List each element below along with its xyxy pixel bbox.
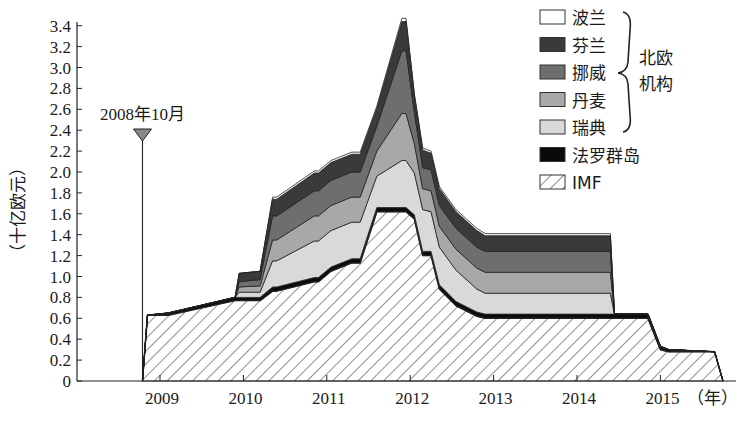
x-axis-label: （年） xyxy=(687,388,738,408)
legend-label: 挪威 xyxy=(572,63,606,83)
legend-swatch xyxy=(540,10,565,24)
y-tick-label: 1.8 xyxy=(50,184,71,203)
legend-swatch xyxy=(540,93,565,107)
y-tick-label: 2.2 xyxy=(50,142,71,161)
y-tick-label: 3.4 xyxy=(50,17,72,36)
y-axis-label: （十亿欧元） xyxy=(8,159,28,261)
x-tick-label: 2015 xyxy=(645,389,679,408)
y-tick-label: 1.0 xyxy=(50,268,71,287)
y-tick-label: 0.6 xyxy=(50,309,71,328)
y-tick-label: 3.2 xyxy=(50,38,71,57)
x-tick-label: 2009 xyxy=(145,389,179,408)
legend-group-label-line1: 北欧 xyxy=(639,48,673,68)
x-tick-label: 2010 xyxy=(228,389,262,408)
legend-swatch xyxy=(540,148,565,162)
y-tick-label: 2.4 xyxy=(50,121,72,140)
legend-swatch xyxy=(540,65,565,79)
x-tick-label: 2014 xyxy=(562,389,597,408)
y-tick-label: 1.4 xyxy=(50,226,72,245)
x-tick-label: 2011 xyxy=(312,389,345,408)
y-tick-label: 1.2 xyxy=(50,247,71,266)
legend-label: 法罗群岛 xyxy=(572,146,640,166)
legend-swatch xyxy=(540,38,565,52)
y-tick-label: 0.4 xyxy=(50,330,72,349)
stacked-area-chart: 00.20.40.60.81.01.21.41.61.82.02.22.42.6… xyxy=(0,0,753,431)
legend-swatch xyxy=(540,175,565,189)
legend-swatch xyxy=(540,120,565,134)
chart-areas xyxy=(142,18,722,381)
y-tick-label: 2.6 xyxy=(50,100,71,119)
y-tick-label: 0.2 xyxy=(50,351,71,370)
y-tick-label: 2.8 xyxy=(50,79,71,98)
y-tick-label: 0.8 xyxy=(50,288,71,307)
y-tick-label: 2.0 xyxy=(50,163,71,182)
y-tick-label: 3.0 xyxy=(50,59,71,78)
legend-label: 芬兰 xyxy=(572,36,606,56)
legend-brace xyxy=(618,12,630,132)
chart-legend: 波兰芬兰挪威丹麦瑞典法罗群岛IMF北欧机构 xyxy=(540,8,673,193)
x-tick-label: 2012 xyxy=(395,389,429,408)
legend-label: 波兰 xyxy=(572,8,606,28)
legend-label: IMF xyxy=(572,173,601,193)
event-marker-label: 2008年10月 xyxy=(100,105,185,124)
y-tick-label: 0 xyxy=(63,372,72,391)
legend-group-label-line2: 机构 xyxy=(639,74,673,94)
triangle-marker-icon xyxy=(133,129,151,141)
x-tick-label: 2013 xyxy=(479,389,513,408)
y-tick-label: 1.6 xyxy=(50,205,71,224)
legend-label: 瑞典 xyxy=(572,118,606,138)
legend-label: 丹麦 xyxy=(572,91,606,111)
